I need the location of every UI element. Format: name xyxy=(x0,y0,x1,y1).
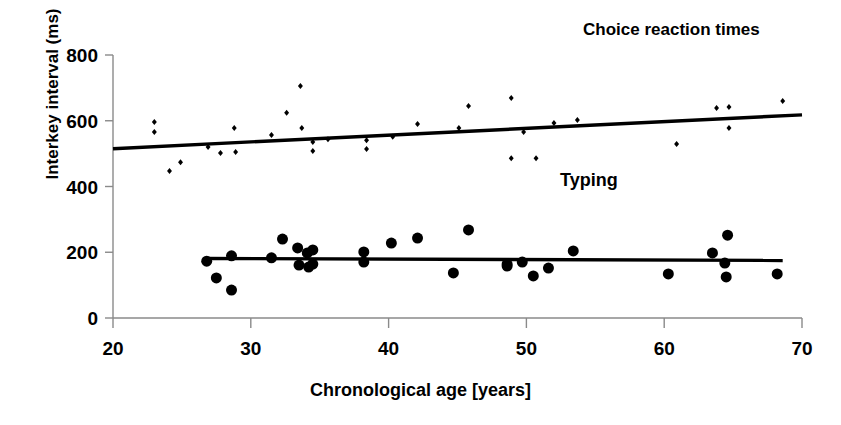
x-tick-label-60: 60 xyxy=(654,338,675,359)
typing-trend-line xyxy=(207,258,783,260)
y-tick-label-800: 800 xyxy=(66,45,98,66)
choice-data-points xyxy=(152,83,785,174)
data-point-diamond xyxy=(509,95,514,101)
data-point-diamond xyxy=(575,117,580,123)
data-point-circle xyxy=(292,242,303,253)
data-point-diamond xyxy=(552,120,557,126)
data-point-diamond xyxy=(364,146,369,152)
data-point-diamond xyxy=(714,105,719,111)
data-point-circle xyxy=(307,259,318,270)
data-point-diamond xyxy=(218,150,223,156)
data-point-diamond xyxy=(415,121,420,127)
data-point-diamond xyxy=(232,125,237,131)
data-point-circle xyxy=(201,256,212,267)
data-point-circle xyxy=(722,230,733,241)
x-axis-ticks xyxy=(113,318,802,328)
data-point-diamond xyxy=(152,129,157,135)
data-point-circle xyxy=(226,250,237,261)
data-point-circle xyxy=(772,268,783,279)
x-tick-label-70: 70 xyxy=(791,338,812,359)
data-point-circle xyxy=(721,271,732,282)
data-point-diamond xyxy=(364,137,369,143)
chart-figure: 0200400600800 203040506070 Interkey inte… xyxy=(0,0,841,425)
choice-trend-line xyxy=(113,115,802,149)
data-point-circle xyxy=(412,233,423,244)
data-point-diamond xyxy=(152,119,157,125)
data-point-circle xyxy=(294,260,305,271)
scatter-plot-canvas: 0200400600800 203040506070 xyxy=(0,0,841,425)
data-point-diamond xyxy=(310,148,315,154)
data-point-circle xyxy=(266,252,277,263)
x-axis-label: Chronological age [years] xyxy=(0,380,841,401)
y-tick-label-0: 0 xyxy=(87,308,98,329)
data-point-diamond xyxy=(509,155,514,161)
data-point-diamond xyxy=(167,168,172,174)
data-point-circle xyxy=(448,267,459,278)
data-point-circle xyxy=(358,246,369,257)
y-axis-label: Interkey interval (ms) xyxy=(43,0,63,209)
y-tick-label-200: 200 xyxy=(66,242,98,263)
data-point-circle xyxy=(463,224,474,235)
data-point-circle xyxy=(528,270,539,281)
data-point-circle xyxy=(277,234,288,245)
data-point-circle xyxy=(358,257,369,268)
data-point-circle xyxy=(226,285,237,296)
data-point-diamond xyxy=(233,149,238,155)
y-axis-ticks xyxy=(105,55,113,318)
y-tick-label-400: 400 xyxy=(66,177,98,198)
y-axis-tick-labels: 0200400600800 xyxy=(66,45,98,329)
data-point-circle xyxy=(719,258,730,269)
trendline xyxy=(207,258,783,260)
data-point-diamond xyxy=(284,110,289,116)
x-tick-label-30: 30 xyxy=(240,338,261,359)
series-label-choice-reaction-times: Choice reaction times xyxy=(583,20,760,40)
data-point-circle xyxy=(568,245,579,256)
data-point-circle xyxy=(707,247,718,258)
x-tick-label-20: 20 xyxy=(102,338,123,359)
data-point-circle xyxy=(517,257,528,268)
data-point-diamond xyxy=(298,83,303,89)
data-point-diamond xyxy=(466,103,471,109)
y-tick-label-600: 600 xyxy=(66,111,98,132)
data-point-diamond xyxy=(780,98,785,104)
data-point-diamond xyxy=(727,104,732,110)
x-axis-tick-labels: 203040506070 xyxy=(102,338,812,359)
x-tick-label-40: 40 xyxy=(378,338,399,359)
series-label-typing: Typing xyxy=(560,170,618,191)
data-point-diamond xyxy=(534,155,539,161)
data-point-diamond xyxy=(299,125,304,131)
data-point-circle xyxy=(211,272,222,283)
data-point-circle xyxy=(663,268,674,279)
data-point-diamond xyxy=(178,159,183,165)
data-point-diamond xyxy=(269,132,274,138)
data-point-diamond xyxy=(674,141,679,147)
x-tick-label-50: 50 xyxy=(516,338,537,359)
data-point-circle xyxy=(386,238,397,249)
data-point-circle xyxy=(543,263,554,274)
trendline xyxy=(113,115,802,149)
data-point-circle xyxy=(307,244,318,255)
data-point-circle xyxy=(502,261,513,272)
data-point-diamond xyxy=(727,125,732,131)
